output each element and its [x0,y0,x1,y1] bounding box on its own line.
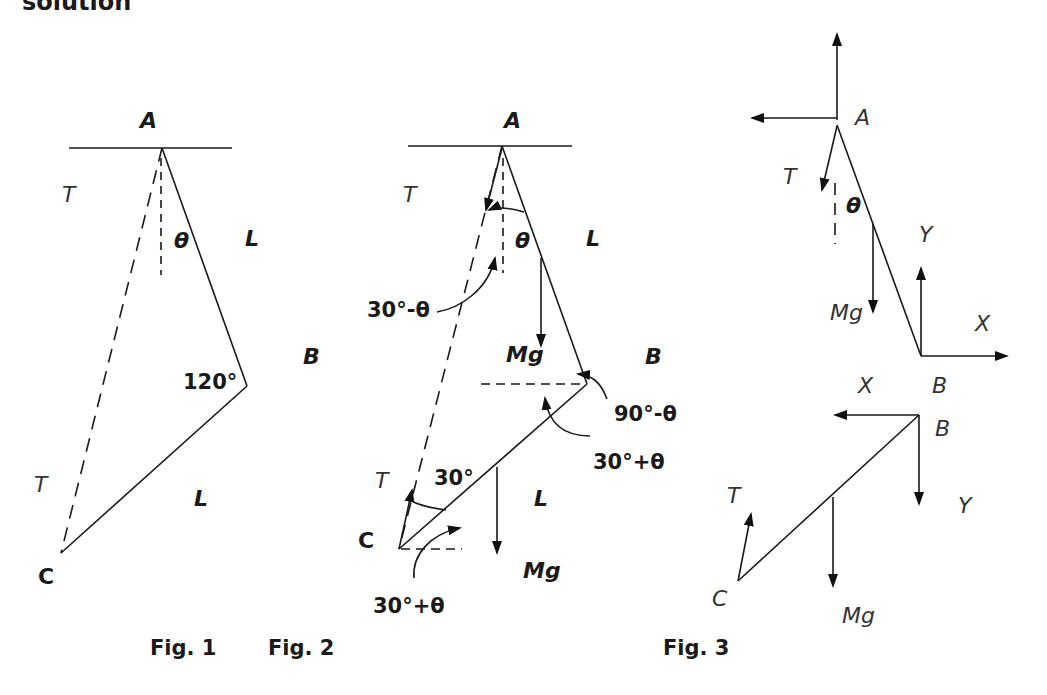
fig2-label-T-bottom: T [375,470,388,492]
fig3-label-A: A [855,107,870,129]
fig3-label-Mg-top: Mg [830,302,863,324]
fig3-label-Y-bottom: Y [958,495,971,517]
fig1-angle-120: 120° [183,372,237,393]
fig1-label-T-bottom: T [34,474,47,496]
fig1-label-C: C [38,566,54,588]
fig3-label-T-bottom: T [727,485,740,507]
fig1-label-L-bottom: L [194,488,208,510]
fig3-label-T-top: T [783,166,796,188]
fig2-label-C: C [358,530,374,552]
fig2-label-Mg-bottom: Mg [523,560,561,582]
fig2-label-B: B [645,346,662,368]
fig2-label-T-top: T [403,184,416,206]
fig1-label-A: A [140,110,157,132]
fig2-rods [399,146,607,578]
fig1-caption: Fig. 1 [150,638,216,659]
fig1-label-L-top: L [245,228,259,250]
fig1-label-B: B [303,346,320,368]
fig2-angle-30-plus-theta-c: 30°+θ [373,596,445,617]
fig3-caption: Fig. 3 [663,638,729,659]
fig3-label-C: C [712,588,727,610]
fig3-label-B-bottom: B [935,418,950,440]
fig3-label-B-top: B [932,375,947,397]
fig2-angle-30-plus-theta-b: 30°+θ [593,452,665,473]
fig1-label-theta: θ [174,230,189,252]
fig3-label-X-bottom: X [858,375,873,397]
fig1-label-T-top: T [62,184,75,206]
fig2-label-L-bottom: L [534,488,548,510]
fig3-label-theta: θ [846,195,861,217]
fig2-label-Mg-top: Mg [506,344,544,366]
fig3-label-Mg-bottom: Mg [842,605,875,627]
fig1-rods [61,148,247,553]
fig3-label-Y-top: Y [919,224,932,246]
fig2-label-L-top: L [586,228,600,250]
fig2-label-A: A [504,110,521,132]
fig3-label-X-top: X [975,313,990,335]
fig2-angle-90-minus-theta: 90°-θ [614,404,677,425]
fig2-angle-30-minus-theta: 30°-θ [367,300,430,321]
fig2-angle-30: 30° [434,468,474,489]
fig2-caption: Fig. 2 [268,638,334,659]
fig2-label-theta: θ [515,230,530,252]
